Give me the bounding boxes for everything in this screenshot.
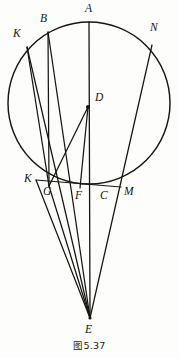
- point-label-m: M: [124, 186, 134, 198]
- segment-N-E: [90, 45, 152, 318]
- segment-B-G: [48, 32, 49, 186]
- geometry-figure: A B K N D K G F C M E 图5.37: [0, 0, 179, 358]
- point-label-a: A: [85, 3, 92, 15]
- point-label-e: E: [85, 324, 92, 336]
- point-label-b: B: [40, 13, 47, 25]
- point-label-f: F: [75, 190, 82, 202]
- point-label-n: N: [150, 22, 158, 34]
- axis-A-E: [89, 22, 90, 318]
- point-label-d: D: [95, 92, 103, 104]
- point-dot-e: [88, 316, 91, 319]
- point-label-k-bottom: K: [24, 173, 32, 185]
- point-label-k-top: K: [13, 28, 21, 40]
- point-label-c: C: [100, 190, 108, 202]
- point-dot-d: [86, 105, 90, 109]
- segment-G-E: [49, 186, 90, 318]
- segment-D-F: [80, 107, 88, 188]
- figure-caption: 图5.37: [0, 338, 179, 352]
- point-label-g: G: [43, 186, 51, 198]
